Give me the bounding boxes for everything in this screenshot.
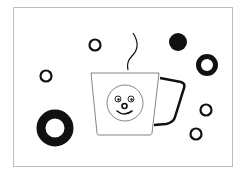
ring-small-right <box>201 105 212 116</box>
dot-filled <box>169 33 187 51</box>
nose-icon <box>122 104 127 109</box>
coffee-illustration <box>0 0 244 177</box>
smiley-face <box>107 85 143 121</box>
ring-large-left <box>41 114 69 142</box>
cup-handle <box>154 78 184 125</box>
ring-small-bottom-right <box>191 129 202 140</box>
ring-small-left <box>41 71 52 82</box>
ring-medium-right <box>199 57 216 74</box>
steam-icon <box>127 33 137 70</box>
ring-small-top <box>90 40 101 51</box>
